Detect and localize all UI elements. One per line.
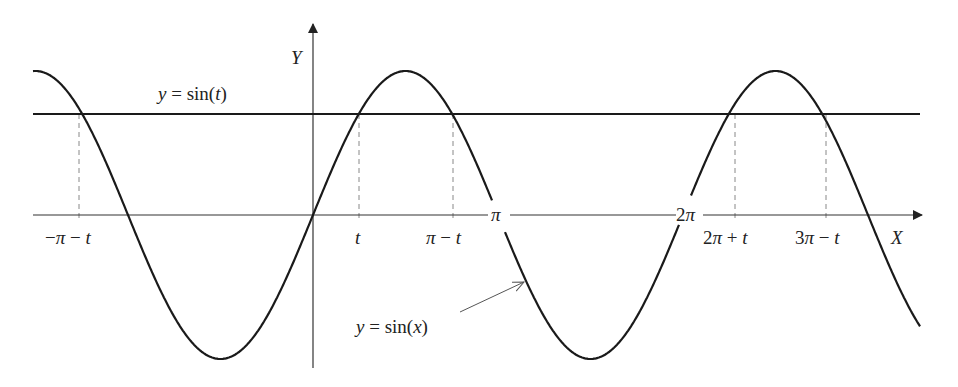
horizontal-line-label: y = sin(t): [156, 83, 227, 105]
tick-label-3pi-minus-t: 3π − t: [795, 227, 840, 248]
sine-curve-label: y = sin(x): [354, 316, 428, 338]
tick-label-neg-pi-minus-t: −π − t: [45, 227, 91, 248]
tick-label-2pi: 2π: [676, 204, 696, 225]
y-axis-label: Y: [291, 47, 304, 68]
curve-label-pointer-arrow: [460, 282, 524, 312]
tick-label-t: t: [355, 227, 361, 248]
dashed-guides: [79, 114, 826, 221]
sine-curve-segment: [505, 225, 679, 359]
sine-curve-segment: [691, 71, 920, 326]
tick-label-pi: π: [491, 204, 501, 225]
x-axis-label: X: [890, 227, 904, 248]
tick-label-2pi-plus-t: 2π + t: [703, 227, 748, 248]
tick-label-pi-minus-t: π − t: [426, 227, 462, 248]
sine-diagram: Y X y = sin(t) y = sin(x) −π − t t π − t…: [0, 0, 958, 387]
